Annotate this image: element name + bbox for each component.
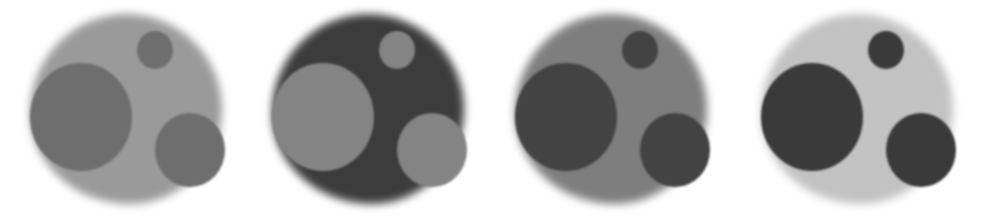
large-inner-disc: [515, 63, 617, 171]
large-inner-disc: [761, 63, 863, 171]
medium-inner-disc: [155, 113, 225, 187]
phantom-panel-4: [731, 0, 976, 218]
large-inner-disc: [272, 63, 374, 171]
small-inner-disc: [379, 31, 415, 69]
phantom-panel-1: [0, 0, 245, 218]
phantom-panel-3: [485, 0, 730, 218]
medium-inner-disc: [886, 113, 956, 187]
large-inner-disc: [30, 63, 132, 171]
small-inner-disc: [868, 31, 904, 69]
phantom-panel-2: [242, 0, 487, 218]
medium-inner-disc: [640, 113, 710, 187]
medium-inner-disc: [397, 113, 467, 187]
small-inner-disc: [622, 31, 658, 69]
small-inner-disc: [137, 31, 173, 69]
